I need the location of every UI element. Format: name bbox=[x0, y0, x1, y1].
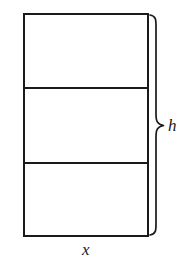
geometry-figure: h x bbox=[0, 0, 193, 264]
height-brace bbox=[150, 15, 164, 235]
height-label: h bbox=[168, 117, 177, 134]
width-label: x bbox=[82, 241, 90, 258]
subdivided-rectangle bbox=[24, 14, 148, 236]
figure-canvas bbox=[0, 0, 193, 264]
